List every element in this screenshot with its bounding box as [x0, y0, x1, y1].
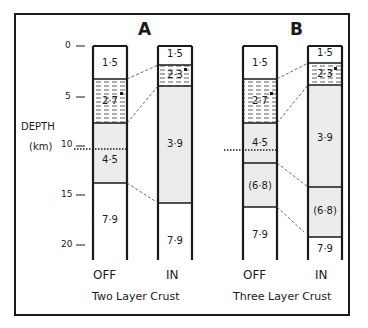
column-a-off: [93, 46, 127, 260]
axis-title: DEPTH: [21, 121, 55, 132]
column-label-a-off: OFF: [93, 268, 116, 282]
column-label-a-in: IN: [166, 268, 179, 282]
layer-velocity: 2·3: [308, 68, 342, 79]
panel-b-label: B: [290, 19, 303, 39]
panel-a-label: A: [138, 19, 151, 39]
column-b-off: [243, 46, 277, 260]
layer-velocity: 4·5: [93, 154, 127, 165]
depth-axis-ticks: [76, 46, 85, 245]
tick-label-10: 10: [61, 139, 72, 149]
layer-velocity: 2·3: [158, 69, 192, 80]
tick-label-20: 20: [61, 239, 72, 249]
tick-label-5: 5: [65, 91, 71, 101]
layer-velocity: 2·7: [93, 95, 127, 106]
layer-velocity: 7·9: [243, 229, 277, 240]
layer-velocity: (6·8): [308, 205, 342, 216]
column-label-b-off: OFF: [243, 268, 266, 282]
layer-velocity: (6·8): [243, 180, 277, 191]
layer-velocity: 1·5: [93, 57, 127, 68]
layer-velocity: 7·9: [93, 214, 127, 225]
caption-two-layer: Two Layer Crust: [92, 290, 180, 303]
layer-velocity: 7·9: [158, 235, 192, 246]
layer-velocity: 1·5: [243, 57, 277, 68]
layer-velocity: 1·5: [158, 48, 192, 59]
layer-velocity: 2·7: [243, 95, 277, 106]
tick-label-0: 0: [65, 40, 71, 50]
column-label-b-in: IN: [315, 268, 328, 282]
layer-velocity: 4·5: [243, 137, 277, 148]
correlation-lines-b: [277, 63, 308, 232]
axis-unit: (km): [29, 141, 52, 152]
layer-velocity: 1·5: [308, 47, 342, 58]
caption-three-layer: Three Layer Crust: [233, 290, 331, 303]
correlation-lines-a: [127, 65, 158, 203]
layer-velocity: 3·9: [158, 138, 192, 149]
tick-label-15: 15: [61, 189, 72, 199]
layer-velocity: 7·9: [308, 243, 342, 254]
layer-velocity: 3·9: [308, 132, 342, 143]
